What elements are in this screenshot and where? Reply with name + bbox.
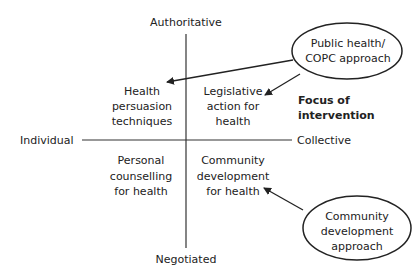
svg-text:approach: approach — [331, 240, 383, 253]
svg-text:health: health — [216, 115, 251, 128]
arrow-to-legislative-action — [265, 74, 300, 95]
svg-text:for health: for health — [206, 185, 259, 198]
svg-text:Focus of: Focus of — [298, 94, 350, 107]
svg-text:techniques: techniques — [112, 115, 173, 128]
axis-label-top: Authoritative — [150, 16, 222, 29]
quadrant-personal-counselling: Personal counselling for health — [110, 154, 172, 198]
focus-of-intervention-label: Focus of intervention — [298, 94, 375, 122]
svg-text:action for: action for — [207, 100, 260, 113]
svg-text:Public health/: Public health/ — [311, 37, 386, 50]
community-development-approach-node: Community development approach — [303, 196, 411, 260]
svg-text:counselling: counselling — [110, 170, 172, 183]
svg-text:persuasion: persuasion — [112, 100, 172, 113]
svg-text:intervention: intervention — [298, 109, 375, 122]
axis-label-left: Individual — [20, 134, 74, 147]
svg-text:for health: for health — [114, 185, 167, 198]
arrow-to-community-development — [264, 188, 303, 210]
svg-text:Community: Community — [325, 210, 389, 223]
svg-text:Legislative: Legislative — [204, 85, 263, 98]
svg-text:development: development — [321, 225, 394, 238]
svg-text:Health: Health — [124, 85, 160, 98]
svg-text:development: development — [197, 170, 270, 183]
axis-label-right: Collective — [297, 134, 351, 147]
svg-text:Community: Community — [201, 154, 265, 167]
quadrant-health-persuasion: Health persuasion techniques — [112, 85, 173, 128]
svg-text:COPC approach: COPC approach — [305, 52, 391, 65]
svg-text:Personal: Personal — [118, 154, 165, 167]
quadrant-legislative-action: Legislative action for health — [204, 85, 263, 128]
axis-label-bottom: Negotiated — [156, 253, 217, 266]
intervention-focus-diagram: Authoritative Negotiated Individual Coll… — [0, 0, 413, 279]
quadrant-community-development: Community development for health — [197, 154, 270, 198]
public-health-approach-node: Public health/ COPC approach — [292, 23, 402, 79]
